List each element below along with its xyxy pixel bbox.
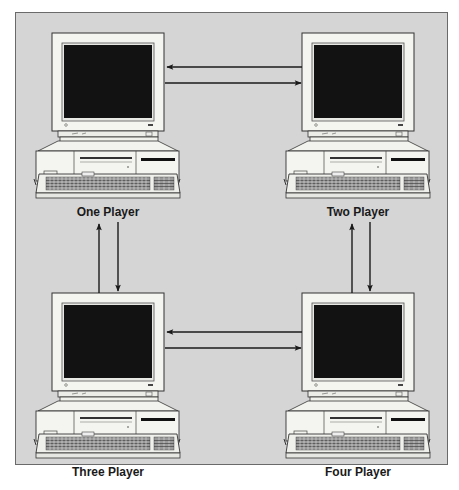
label-three-player: Three Player — [33, 465, 183, 479]
label-four-player: Four Player — [283, 465, 433, 479]
computer-four-player — [284, 293, 430, 458]
network-diagram — [0, 0, 459, 490]
label-two-player: Two Player — [283, 205, 433, 219]
label-one-player: One Player — [33, 205, 183, 219]
computer-two-player — [284, 33, 430, 198]
computer-one-player — [34, 33, 180, 198]
computer-three-player — [34, 293, 180, 458]
